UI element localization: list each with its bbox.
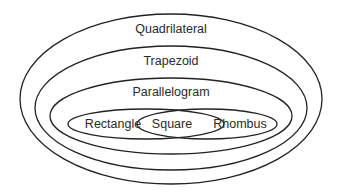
rectangle-label: Rectangle <box>85 118 141 131</box>
square-label: Square <box>152 118 192 131</box>
trapezoid-label: Trapezoid <box>143 55 198 68</box>
quadrilateral-venn-diagram: Quadrilateral Trapezoid Parallelogram Re… <box>0 0 340 194</box>
parallelogram-label: Parallelogram <box>132 86 209 99</box>
quadrilateral-label: Quadrilateral <box>135 23 207 36</box>
rhombus-label: Rhombus <box>213 118 267 131</box>
quadrilateral-ellipse <box>20 14 322 184</box>
